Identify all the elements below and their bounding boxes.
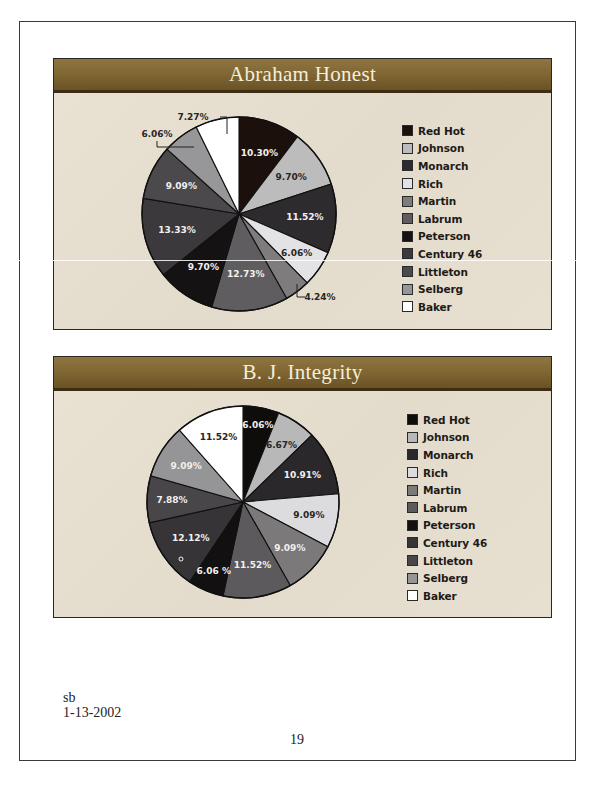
legend-swatch	[402, 266, 413, 277]
legend-swatch	[407, 590, 418, 601]
legend-swatch	[407, 520, 418, 531]
pie-slice-label: 9.09%	[274, 543, 305, 553]
legend-item-martin: Martin	[407, 481, 487, 499]
pie-slice-label: 6.67%	[266, 440, 297, 450]
legend-label: Century 46	[423, 537, 487, 549]
legend-swatch	[402, 125, 413, 136]
pie-chart-bj-integrity: 6.06%6.67%10.91%9.09%9.09%11.52%6.06 %12…	[0, 0, 596, 795]
legend-label: Red Hot	[423, 414, 470, 426]
legend-item-martin: Martin	[402, 192, 482, 210]
legend-label: Selberg	[423, 572, 468, 584]
legend-item-peterson: Peterson	[402, 228, 482, 246]
legend-item-rich: Rich	[402, 175, 482, 193]
legend-item-selberg: Selberg	[402, 280, 482, 298]
legend-swatch	[402, 284, 413, 295]
legend-item-monarch: Monarch	[407, 446, 487, 464]
pie-slice-label: 7.88%	[156, 495, 187, 505]
legend-item-monarch: Monarch	[402, 157, 482, 175]
legend-item-red-hot: Red Hot	[407, 411, 487, 429]
legend-swatch	[402, 178, 413, 189]
legend-label: Rich	[418, 178, 443, 190]
legend-label: Martin	[423, 484, 461, 496]
legend-swatch	[407, 414, 418, 425]
legend-label: Martin	[418, 195, 456, 207]
legend-swatch	[407, 502, 418, 513]
legend-item-selberg: Selberg	[407, 569, 487, 587]
legend-item-littleton: Littleton	[402, 263, 482, 281]
legend-label: Monarch	[423, 449, 473, 461]
legend-swatch	[407, 485, 418, 496]
legend-label: Johnson	[418, 142, 464, 154]
legend-label: Labrum	[418, 213, 462, 225]
legend-swatch	[407, 449, 418, 460]
legend-label: Red Hot	[418, 125, 465, 137]
legend-item-littleton: Littleton	[407, 552, 487, 570]
legend-swatch	[402, 248, 413, 259]
legend-item-labrum: Labrum	[407, 499, 487, 517]
pie-slice-label: 12.12%	[172, 533, 210, 543]
legend-swatch	[402, 301, 413, 312]
pie-slice-label: 10.91%	[284, 470, 322, 480]
legend-swatch	[402, 196, 413, 207]
scan-artifact-line	[19, 260, 576, 261]
legend-label: Century 46	[418, 248, 482, 260]
pie-slice-label: 9.09%	[293, 510, 324, 520]
legend-swatch	[407, 432, 418, 443]
legend-label: Peterson	[423, 519, 475, 531]
legend-item-labrum: Labrum	[402, 210, 482, 228]
legend-item-johnson: Johnson	[407, 429, 487, 447]
legend-item-peterson: Peterson	[407, 517, 487, 535]
legend-item-red-hot: Red Hot	[402, 122, 482, 140]
pie-slice-label: 11.52%	[200, 432, 238, 442]
legend-swatch	[407, 467, 418, 478]
legend-label: Peterson	[418, 230, 470, 242]
legend-bj-integrity: Red HotJohnsonMonarchRichMartinLabrumPet…	[407, 411, 487, 605]
legend-swatch	[407, 555, 418, 566]
legend-swatch	[402, 231, 413, 242]
legend-swatch	[407, 573, 418, 584]
footer-author: sb	[63, 690, 75, 706]
legend-label: Selberg	[418, 283, 463, 295]
legend-item-johnson: Johnson	[402, 140, 482, 158]
legend-swatch	[402, 143, 413, 154]
legend-label: Johnson	[423, 431, 469, 443]
legend-abraham-honest: Red HotJohnsonMonarchRichMartinLabrumPet…	[402, 122, 482, 316]
legend-label: Littleton	[423, 555, 473, 567]
legend-label: Littleton	[418, 266, 468, 278]
legend-label: Baker	[423, 590, 457, 602]
legend-item-century-46: Century 46	[407, 534, 487, 552]
pie-slice-label: 6.06 %	[197, 566, 231, 576]
legend-swatch	[407, 537, 418, 548]
pie-slice-label: 11.52%	[234, 560, 272, 570]
legend-label: Monarch	[418, 160, 468, 172]
legend-label: Labrum	[423, 502, 467, 514]
legend-item-baker: Baker	[402, 298, 482, 316]
footer-date: 1-13-2002	[63, 705, 121, 721]
pie-slice-label: 9.09%	[170, 461, 201, 471]
legend-item-baker: Baker	[407, 587, 487, 605]
legend-swatch	[402, 213, 413, 224]
legend-swatch	[402, 160, 413, 171]
page-number: 19	[290, 732, 304, 748]
pie-slice-label: 6.06%	[242, 420, 273, 430]
legend-label: Rich	[423, 467, 448, 479]
legend-item-rich: Rich	[407, 464, 487, 482]
legend-label: Baker	[418, 301, 452, 313]
